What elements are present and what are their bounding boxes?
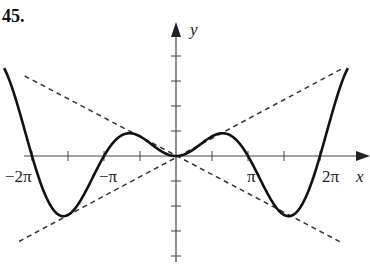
y-axis-arrow-icon bbox=[171, 22, 181, 37]
y-axis-label: y bbox=[188, 20, 198, 39]
problem-number: 45. bbox=[2, 6, 25, 26]
x-tick-label-neg-pi: −π bbox=[99, 167, 118, 186]
x-axis-arrow-icon bbox=[356, 151, 370, 161]
x-tick-label-pi: π bbox=[247, 167, 256, 186]
function-graph: 45. −2π −π π 2π x y bbox=[0, 0, 370, 265]
asymptote-line-negative bbox=[25, 76, 344, 244]
x-axis-label: x bbox=[355, 167, 364, 186]
x-tick-label-neg-2pi: −2π bbox=[5, 167, 32, 186]
axes bbox=[24, 30, 360, 262]
x-tick-label-2pi: 2π bbox=[322, 167, 340, 186]
